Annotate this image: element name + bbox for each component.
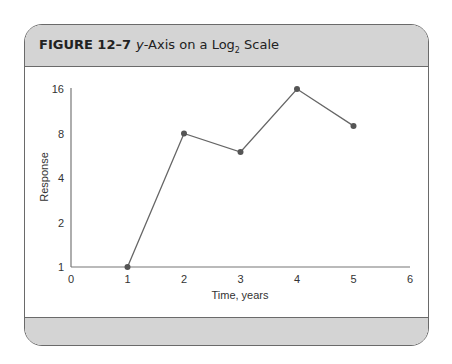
data-point — [351, 123, 357, 129]
y-tick-label: 16 — [52, 83, 64, 95]
x-tick-label: 2 — [181, 273, 187, 285]
data-point — [294, 86, 300, 92]
x-axis-label: Time, years — [211, 289, 269, 301]
x-tick-label: 4 — [294, 273, 300, 285]
y-axis-label: Response — [38, 152, 50, 202]
line-chart: 0123456124816 Time, years Response — [0, 0, 452, 364]
data-point — [181, 131, 187, 137]
data-point — [238, 149, 244, 155]
y-tick-label: 1 — [58, 261, 64, 273]
data-point — [125, 264, 131, 270]
x-tick-label: 1 — [124, 273, 130, 285]
y-tick-label: 8 — [58, 128, 64, 140]
y-tick-label: 2 — [58, 217, 64, 229]
x-tick-label: 0 — [68, 273, 74, 285]
x-tick-label: 3 — [237, 273, 243, 285]
chart-axes: 0123456124816 — [52, 83, 413, 285]
chart-series — [125, 86, 357, 270]
data-line — [128, 89, 354, 267]
y-tick-label: 4 — [58, 172, 64, 184]
x-tick-label: 5 — [350, 273, 356, 285]
x-tick-label: 6 — [407, 273, 413, 285]
